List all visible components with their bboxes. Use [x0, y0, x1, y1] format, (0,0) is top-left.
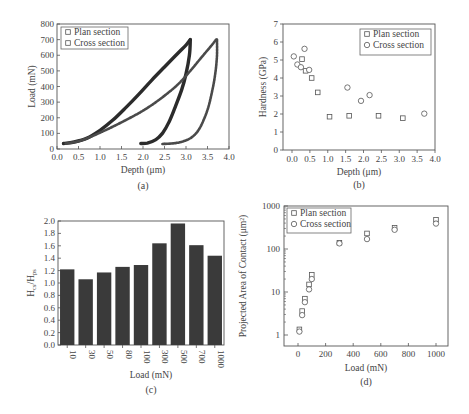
data-point: [364, 236, 369, 241]
legend: Plan sectionCross section: [287, 208, 351, 233]
x-tick-label: 400: [346, 349, 360, 359]
legend-entry: Plan section: [300, 208, 346, 218]
bar-50-mN: [97, 272, 111, 345]
x-tick-label: 10: [68, 350, 78, 360]
data-point: [309, 276, 314, 281]
x-axis-label: Depth (μm): [121, 165, 165, 176]
panel-d-projected-area-chart: 020040060080010001101001000Load (mN)Proj…: [238, 201, 448, 388]
legend-entry: Plan section: [74, 27, 120, 37]
panel-caption: (a): [137, 180, 148, 192]
y-tick-label: 0.2: [44, 328, 55, 338]
data-point: [365, 231, 370, 236]
y-tick-label: 1.6: [44, 241, 56, 251]
x-tick-label: 50: [105, 350, 115, 360]
panel-a-load-depth-chart: 0.00.51.01.52.02.53.03.54.00100200300400…: [27, 19, 235, 192]
x-tick-label: 2.0: [137, 152, 149, 162]
x-tick-label: 80: [124, 350, 134, 360]
y-tick-label: 3: [274, 91, 279, 101]
square-marker-icon: [292, 211, 297, 216]
x-axis-label: Depth (μm): [337, 167, 381, 178]
y-tick-label: 1.8: [44, 228, 56, 238]
x-tick-label: 3.0: [394, 154, 406, 164]
bar-500-mN: [171, 223, 185, 345]
data-point: [315, 90, 320, 95]
y-tick-label: 200: [41, 113, 55, 123]
bar-10-mN: [60, 269, 74, 345]
bar-30-mN: [78, 279, 92, 345]
series-plan-section: [297, 217, 438, 331]
data-point: [422, 111, 427, 116]
legend-entry: Plan section: [373, 29, 419, 39]
figure: 0.00.51.01.52.02.53.03.54.00100200300400…: [0, 0, 469, 414]
series-cross-section: [291, 46, 427, 116]
data-point: [376, 114, 381, 119]
y-tick-label: 6: [274, 37, 279, 47]
x-tick-label: 200: [319, 349, 333, 359]
data-point: [401, 116, 406, 121]
y-tick-label: 500: [41, 66, 55, 76]
x-tick-label: 0.5: [304, 154, 316, 164]
x-tick-label: 2.5: [159, 152, 171, 162]
circle-marker-icon: [291, 221, 296, 226]
y-tick-label: 10: [271, 287, 281, 297]
x-tick-label: 1000: [427, 349, 446, 359]
y-tick-label: 1: [274, 127, 279, 137]
x-tick-label: 4.0: [429, 154, 441, 164]
data-point: [302, 46, 307, 51]
square-marker-icon: [365, 32, 370, 37]
x-axis-label: Load (mN): [345, 363, 387, 374]
y-tick-label: 0.8: [44, 290, 56, 300]
y-tick-label: 2.0: [44, 216, 56, 226]
x-tick-label: 0.5: [73, 152, 85, 162]
square-marker-icon: [66, 30, 71, 35]
data-point: [433, 221, 438, 226]
y-tick-label: 1.0: [44, 278, 56, 288]
x-tick-label: 1.5: [116, 152, 128, 162]
y-tick-label: 0.4: [44, 315, 56, 325]
x-tick-label: 3.0: [180, 152, 192, 162]
x-tick-label: 3.5: [412, 154, 424, 164]
x-tick-label: 100: [142, 350, 152, 364]
legend: Plan sectionCross section: [61, 27, 128, 49]
x-tick-label: 30: [87, 350, 97, 360]
series-plan-section: [300, 57, 405, 121]
y-tick-label: 0: [50, 144, 55, 154]
y-tick-label: 5: [274, 55, 279, 65]
y-tick-label: 600: [41, 50, 55, 60]
x-tick-label: 700: [197, 350, 207, 364]
data-point: [291, 54, 296, 59]
x-tick-label: 0.0: [286, 154, 298, 164]
legend: Plan sectionCross section: [360, 29, 431, 55]
y-tick-label: 400: [41, 82, 55, 92]
y-axis-label: Load (mN): [27, 65, 38, 107]
bar-300-mN: [152, 243, 166, 345]
x-tick-label: 3.5: [202, 152, 214, 162]
y-tick-label: 1000: [262, 201, 281, 211]
bar-700-mN: [189, 245, 203, 345]
data-point: [307, 282, 312, 287]
x-tick-label: 500: [179, 350, 189, 364]
bar-80-mN: [115, 267, 129, 345]
x-tick-label: 300: [160, 350, 170, 364]
y-tick-label: 0.0: [44, 340, 56, 350]
y-tick-label: 1: [276, 330, 281, 340]
panel-b-hardness-depth-chart: 0.00.51.01.52.02.53.03.54.001234567Depth…: [258, 19, 441, 191]
y-tick-label: 700: [41, 35, 55, 45]
data-point: [297, 329, 302, 334]
panel-c-hardness-ratio-bar-chart: 0.00.20.40.60.81.01.21.41.61.82.01030508…: [26, 216, 226, 396]
x-axis-label: Load (mN): [130, 370, 172, 381]
y-tick-label: 7: [274, 19, 279, 29]
data-point: [299, 312, 304, 317]
y-tick-label: 100: [41, 128, 55, 138]
y-axis-label: Hcs/Hps: [26, 269, 37, 297]
data-point: [337, 241, 342, 246]
data-point: [300, 57, 305, 62]
data-point: [306, 287, 311, 292]
bar-100-mN: [134, 265, 148, 345]
data-point: [345, 85, 350, 90]
panel-caption: (d): [360, 376, 372, 388]
y-tick-label: 100: [267, 244, 281, 254]
x-tick-label: 800: [402, 349, 416, 359]
y-tick-label: 4: [274, 73, 279, 83]
x-tick-label: 1000: [216, 350, 226, 369]
